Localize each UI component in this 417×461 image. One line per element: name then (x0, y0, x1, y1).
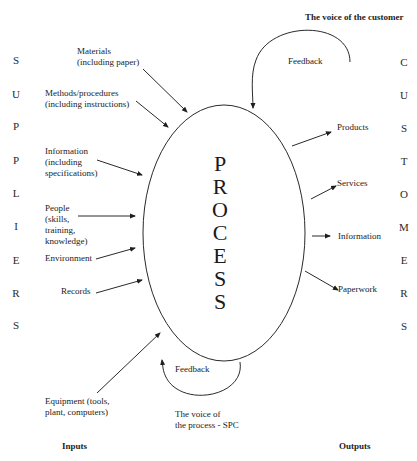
arrow-products (292, 132, 331, 146)
arrow-records (96, 280, 142, 293)
customers-letter: C (398, 56, 410, 68)
arrow-paperwork (305, 271, 338, 290)
process-letter: C (208, 222, 232, 244)
process-letter: P (208, 153, 232, 175)
arrow-methods (136, 101, 168, 127)
input-records-label: Records (61, 286, 91, 297)
customers-letter: S (398, 320, 410, 332)
input-environment-label: Environment (45, 253, 92, 264)
input-information-label: Information (including specifications) (45, 146, 97, 179)
process-letter: E (208, 245, 232, 267)
suppliers-letter: P (10, 120, 22, 132)
output-information-label: Information (338, 231, 381, 242)
output-products-label: Products (337, 122, 369, 133)
outputs-heading: Outputs (339, 441, 371, 452)
input-equipment-label: Equipment (tools, plant, computers) (45, 396, 110, 418)
suppliers-letter: S (10, 54, 22, 66)
suppliers-letter: U (10, 88, 22, 100)
feedback-top-label: Feedback (288, 56, 322, 67)
customers-letter: U (398, 89, 410, 101)
suppliers-letter: E (10, 254, 22, 266)
arrow-environment (96, 248, 135, 259)
arrow-services (311, 186, 336, 199)
arrow-information-in (97, 160, 142, 175)
suppliers-letter: S (10, 319, 22, 331)
arrow-equipment (97, 333, 160, 393)
input-materials-label: Materials (including paper) (77, 46, 139, 68)
suppliers-letter: P (10, 154, 22, 166)
feedback-customer-arc (252, 30, 350, 108)
customers-letter: S (398, 122, 410, 134)
suppliers-letter: I (10, 220, 22, 232)
input-methods-label: Methods/procedures (including instructio… (45, 88, 129, 110)
customers-letter: R (398, 287, 410, 299)
voice-of-customer-caption: The voice of the customer (305, 12, 403, 23)
process-letter: R (208, 176, 232, 198)
process-letter: S (208, 291, 232, 313)
voice-of-process-caption: The voice of the process - SPC (175, 409, 239, 431)
input-people-label: People (skills, training, knowledge) (45, 203, 88, 247)
customers-letter: E (398, 254, 410, 266)
feedback-bottom-label: Feedback (175, 364, 209, 375)
suppliers-letter: L (10, 187, 22, 199)
inputs-heading: Inputs (62, 441, 87, 452)
customers-letter: M (398, 221, 410, 233)
process-letter: S (208, 268, 232, 290)
output-paperwork-label: Paperwork (338, 284, 377, 295)
output-services-label: Services (337, 178, 368, 189)
process-letter: O (208, 199, 232, 221)
customers-letter: T (398, 155, 410, 167)
suppliers-letter: R (10, 287, 22, 299)
customers-letter: O (398, 188, 410, 200)
arrow-materials (143, 69, 187, 112)
